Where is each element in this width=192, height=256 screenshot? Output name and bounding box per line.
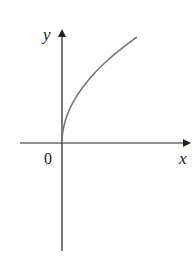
chart-canvas: y x 0 — [0, 0, 192, 256]
x-axis-label: x — [178, 149, 187, 168]
y-axis-label: y — [41, 25, 51, 44]
sqrt-curve — [62, 37, 137, 143]
origin-label: 0 — [44, 150, 52, 167]
